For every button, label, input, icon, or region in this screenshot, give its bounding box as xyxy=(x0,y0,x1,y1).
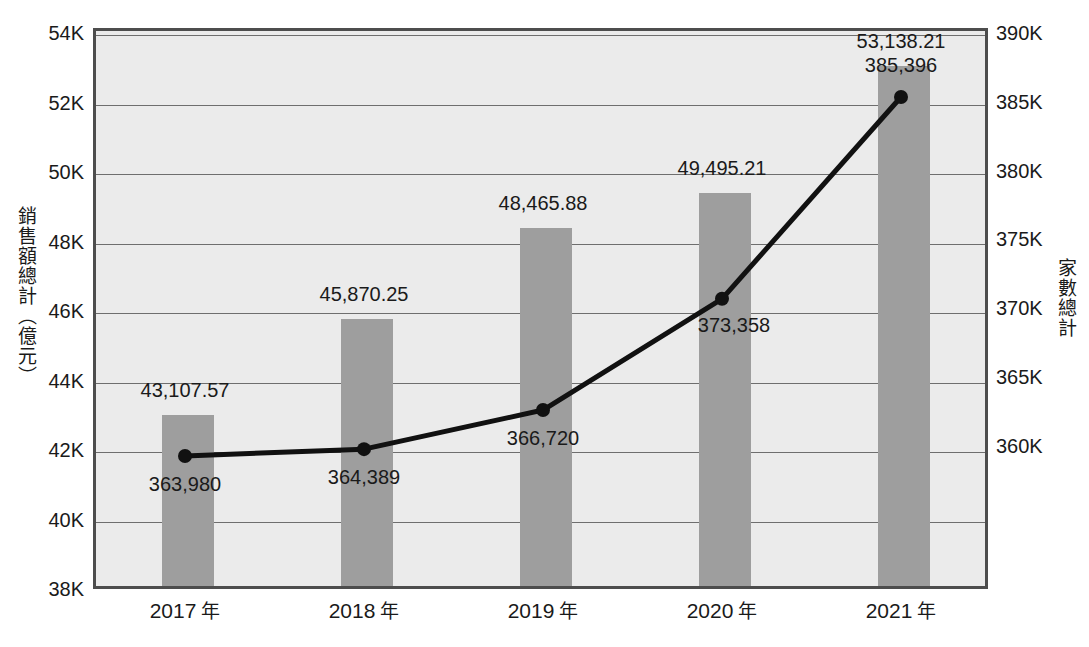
line-marker xyxy=(536,403,550,417)
y-axis-right-title: 家數總計 xyxy=(1056,258,1075,338)
line-series xyxy=(0,0,1089,647)
line-marker xyxy=(357,442,371,456)
line-marker xyxy=(178,449,192,463)
line-marker xyxy=(715,292,729,306)
y-axis-left-title: 銷售額總計（億元） xyxy=(16,206,35,386)
line-path xyxy=(185,97,901,456)
line-marker xyxy=(894,90,908,104)
dual-axis-chart: 38K40K42K44K46K48K50K52K54K 360K365K370K… xyxy=(0,0,1089,647)
